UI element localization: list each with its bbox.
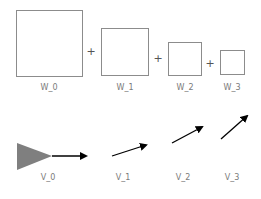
weight-label-w1: W_1 xyxy=(117,83,134,92)
weights-row: W_0 + W_1 + W_2 + W_3 xyxy=(17,11,245,93)
weight-w2: W_2 xyxy=(169,43,202,93)
weight-w0: W_0 xyxy=(17,11,83,93)
weight-box-w0 xyxy=(17,11,83,77)
weight-label-w0: W_0 xyxy=(41,83,58,92)
diagram-canvas: W_0 + W_1 + W_2 + W_3 V_0 xyxy=(0,0,261,199)
vectors-row: V_0 V_1 V_2 V_3 xyxy=(17,116,247,182)
vector-v2: V_2 xyxy=(172,127,202,182)
weight-box-w1 xyxy=(102,29,149,76)
vector-label-v0: V_0 xyxy=(41,173,56,182)
weight-label-w3: W_3 xyxy=(224,83,241,92)
weight-box-w2 xyxy=(169,43,202,76)
vector-v1: V_1 xyxy=(112,145,146,182)
plus-operator-3: + xyxy=(205,57,214,70)
vector-label-v3: V_3 xyxy=(225,173,240,182)
vector-label-v2: V_2 xyxy=(176,173,191,182)
arrow-v2 xyxy=(172,127,202,143)
vector-label-v1: V_1 xyxy=(116,173,131,182)
triangle-icon xyxy=(17,143,52,170)
weight-label-w2: W_2 xyxy=(177,83,194,92)
plus-operator-2: + xyxy=(153,52,162,65)
vector-v3: V_3 xyxy=(221,116,247,182)
arrow-v1 xyxy=(112,145,146,156)
vector-v0: V_0 xyxy=(17,143,86,182)
weight-box-w3 xyxy=(221,51,245,75)
weight-w1: W_1 xyxy=(102,29,149,93)
arrow-v3 xyxy=(221,116,247,139)
plus-operator-1: + xyxy=(86,45,95,58)
weight-w3: W_3 xyxy=(221,51,245,93)
